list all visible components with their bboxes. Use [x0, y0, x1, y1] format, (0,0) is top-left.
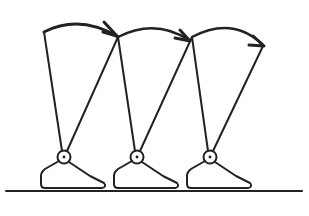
- leg-line: [118, 37, 135, 151]
- leg-line: [44, 32, 62, 151]
- leg-lines: [44, 32, 263, 151]
- leg-line: [213, 46, 263, 151]
- gait-diagram: [0, 0, 309, 216]
- leg-line: [140, 37, 192, 151]
- foot: [187, 151, 251, 189]
- ankle-dots: [63, 156, 212, 159]
- leg-line: [67, 37, 118, 151]
- gait-diagram-canvas: [0, 0, 309, 216]
- leg-line: [192, 37, 208, 151]
- ankle-dot-icon: [63, 156, 66, 159]
- foot: [114, 151, 178, 189]
- foot: [41, 151, 105, 189]
- ankle-dot-icon: [209, 156, 212, 159]
- arrowhead-icon: [249, 36, 264, 46]
- ankle-dot-icon: [136, 156, 139, 159]
